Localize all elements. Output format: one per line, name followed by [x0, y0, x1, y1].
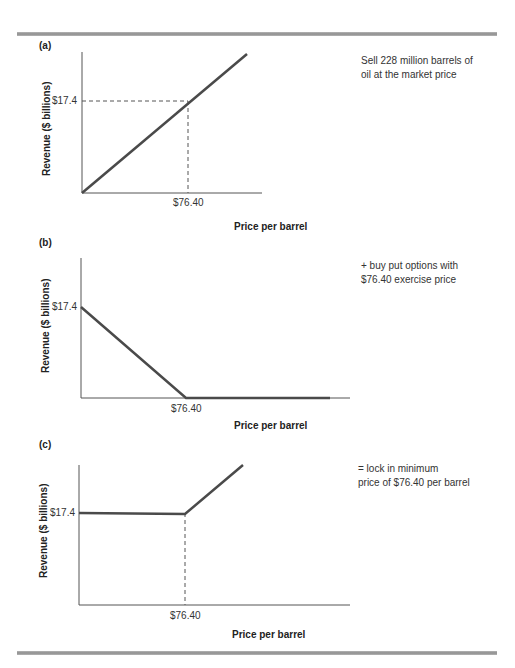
panel-c-xtick: $76.40 [170, 610, 201, 621]
panel-c-label: (c) [39, 439, 51, 450]
panel-b-xtick: $76.40 [171, 403, 202, 414]
panel-a-annotation-line2: oil at the market price [361, 68, 515, 82]
panel-a-plot [82, 52, 262, 193]
panel-b-annotation-line2: $76.40 exercise price [361, 273, 515, 287]
plots-svg [0, 0, 515, 668]
panel-c-xlabel: Price per barrel [232, 629, 305, 640]
panel-a-label: (a) [39, 40, 51, 51]
panel-c-ylabel: Revenue ($ billions) [38, 484, 49, 578]
panel-a-revenue-line [82, 54, 247, 193]
panel-a-xtick: $76.40 [173, 197, 204, 208]
panel-b-annotation: + buy put options with $76.40 exercise p… [361, 259, 515, 287]
panel-b-put-line [81, 307, 330, 398]
panel-a-ylabel: Revenue ($ billions) [41, 82, 52, 176]
panel-b-ylabel: Revenue ($ billions) [40, 279, 51, 373]
panel-c-annotation-line2: price of $76.40 per barrel [358, 476, 515, 490]
panel-c-combined-line [79, 465, 243, 514]
panel-b-label: (b) [39, 237, 52, 248]
panel-b-annotation-line1: + buy put options with [361, 259, 515, 273]
panel-a-annotation: Sell 228 million barrels of oil at the m… [361, 54, 515, 82]
panel-a-xlabel: Price per barrel [234, 221, 307, 232]
panel-b-plot [81, 258, 350, 398]
panel-c-annotation-line1: = lock in minimum [358, 462, 515, 476]
panel-c-plot [79, 465, 350, 605]
panel-a-annotation-line1: Sell 228 million barrels of [361, 54, 515, 68]
panel-b-xlabel: Price per barrel [234, 420, 307, 431]
panel-c-annotation: = lock in minimum price of $76.40 per ba… [358, 462, 515, 490]
